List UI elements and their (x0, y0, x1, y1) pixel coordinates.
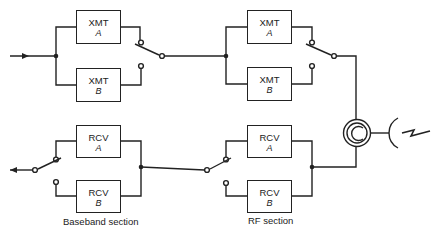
block-label: XMT (248, 74, 291, 85)
lightning-icon (402, 130, 430, 136)
block-label: RCV (248, 187, 291, 198)
block-sublabel: B (248, 198, 291, 209)
antenna-icon (389, 118, 398, 148)
xmt-a-rf-block: XMT A (247, 10, 292, 44)
block-label: XMT (77, 75, 120, 86)
block-label: XMT (77, 17, 120, 28)
block-sublabel: A (248, 28, 291, 39)
rf-section-label: RF section (248, 215, 293, 226)
rcv-b-baseband-block: RCV B (76, 180, 121, 213)
switch-icon (33, 157, 61, 184)
xmt-a-baseband-block: XMT A (76, 10, 121, 44)
block-sublabel: A (248, 143, 291, 154)
block-sublabel: A (77, 28, 120, 39)
block-label: RCV (248, 132, 291, 143)
diagram-wiring (0, 0, 442, 235)
rcv-b-rf-block: RCV B (247, 180, 292, 213)
rcv-a-baseband-block: RCV A (76, 125, 121, 158)
circulator-icon (344, 120, 371, 147)
switch-icon (205, 157, 231, 185)
input-arrow-icon (10, 53, 56, 59)
block-sublabel: B (248, 85, 291, 96)
output-arrow-icon (10, 167, 33, 173)
xmt-b-baseband-block: XMT B (76, 68, 121, 102)
block-label: XMT (248, 17, 291, 28)
switch-icon (306, 40, 336, 68)
block-sublabel: B (77, 86, 120, 97)
switch-icon (135, 40, 164, 68)
block-sublabel: B (77, 198, 120, 209)
rcv-a-rf-block: RCV A (247, 125, 292, 158)
xmt-b-rf-block: XMT B (247, 67, 292, 101)
baseband-section-label: Baseband section (63, 216, 139, 227)
block-label: RCV (77, 187, 120, 198)
block-sublabel: A (77, 143, 120, 154)
block-label: RCV (77, 132, 120, 143)
